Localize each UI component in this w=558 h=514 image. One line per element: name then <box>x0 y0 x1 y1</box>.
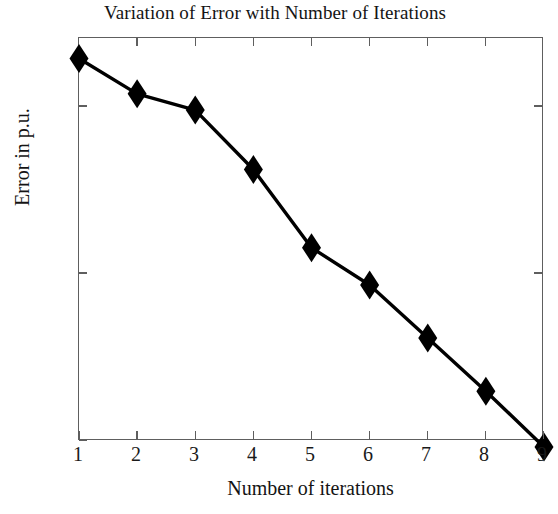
x-tick-top-6 <box>369 38 370 46</box>
x-tick-label-1: 1 <box>58 444 98 464</box>
data-series-layer <box>79 38 544 441</box>
page-title: Variation of Error with Number of Iterat… <box>0 2 550 24</box>
x-tick-top-3 <box>195 38 196 46</box>
x-tick-top-7 <box>427 38 428 46</box>
x-tick-top-5 <box>311 38 312 46</box>
data-point-marker-7 <box>418 323 437 352</box>
y-tick-right-1e-5 <box>534 272 542 273</box>
y-tick-1e0 <box>79 105 87 106</box>
x-tick-top-2 <box>136 38 137 46</box>
data-point-marker-3 <box>186 96 205 125</box>
y-tick-1e-5 <box>79 272 87 273</box>
x-tick-top-8 <box>485 38 486 46</box>
x-tick-label-6: 6 <box>348 444 388 464</box>
data-point-marker-1 <box>70 44 89 73</box>
y-axis-label-wrapper: Error in p.u. <box>11 47 37 267</box>
x-tick-label-9: 9 <box>522 444 558 464</box>
y-tick-right-1e0 <box>534 105 542 106</box>
x-tick-1 <box>78 431 79 439</box>
x-tick-label-4: 4 <box>232 444 272 464</box>
x-tick-label-3: 3 <box>174 444 214 464</box>
y-tick-1e-10 <box>79 440 87 441</box>
x-tick-4 <box>253 431 254 439</box>
x-tick-label-5: 5 <box>290 444 330 464</box>
data-point-marker-2 <box>128 79 147 108</box>
x-tick-label-7: 7 <box>406 444 446 464</box>
x-tick-2 <box>136 431 137 439</box>
x-axis-label: Number of iterations <box>78 477 543 500</box>
plot-area <box>78 37 543 440</box>
data-point-marker-6 <box>360 271 379 300</box>
series-markers-error <box>70 44 554 461</box>
x-tick-9 <box>543 431 544 439</box>
x-tick-7 <box>427 431 428 439</box>
x-tick-8 <box>485 431 486 439</box>
data-point-marker-8 <box>476 377 495 406</box>
x-tick-5 <box>311 431 312 439</box>
y-axis-label: Error in p.u. <box>11 47 34 267</box>
x-tick-top-4 <box>253 38 254 46</box>
x-tick-6 <box>369 431 370 439</box>
x-tick-3 <box>195 431 196 439</box>
x-tick-label-8: 8 <box>464 444 504 464</box>
x-tick-label-2: 2 <box>116 444 156 464</box>
